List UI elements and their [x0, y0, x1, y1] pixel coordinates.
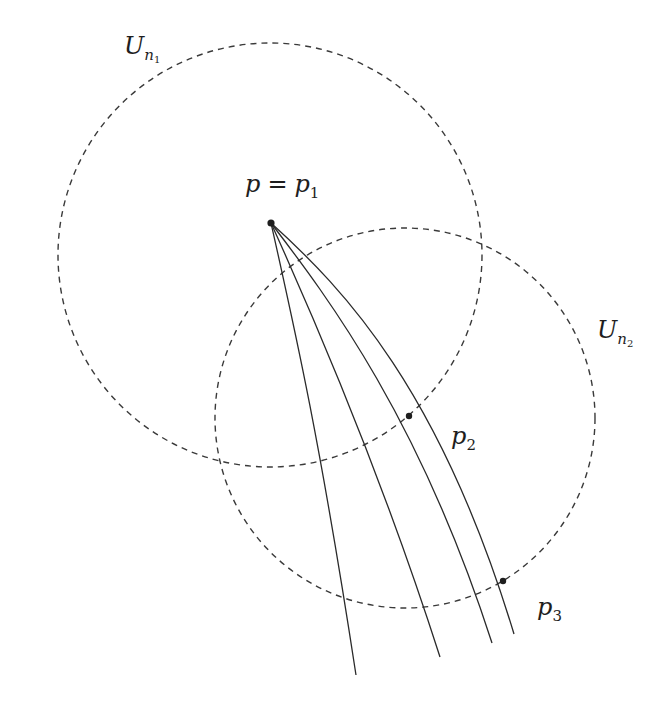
label-p3-sub: 3	[552, 607, 562, 625]
label-p-equals-p1: p=p1	[245, 172, 319, 201]
curve-1	[271, 223, 356, 675]
label-u-n1: Un1	[124, 34, 160, 65]
curve-2	[271, 223, 440, 657]
point-p3	[500, 578, 506, 584]
label-p2-base: p	[451, 422, 466, 450]
label-p3: p3	[537, 595, 562, 624]
label-p2-sub: 2	[466, 436, 476, 454]
label-p2: p2	[451, 424, 476, 453]
label-p: p	[245, 170, 260, 198]
label-p1-sub: 1	[310, 184, 320, 202]
label-u-n2-subsub: 2	[627, 338, 633, 349]
label-p3-base: p	[537, 593, 552, 621]
diagram-canvas	[0, 0, 667, 702]
label-p1-base: p	[294, 170, 309, 198]
label-u-n1-base: U	[124, 32, 144, 60]
equals-sign: =	[260, 170, 294, 198]
label-u-n2-sub: n	[617, 330, 627, 348]
point-p1	[267, 219, 274, 226]
label-u-n2: Un2	[597, 318, 633, 349]
point-p2	[406, 413, 412, 419]
label-u-n1-sub: n	[144, 46, 154, 64]
neighborhood-circle-u-n2	[215, 228, 595, 608]
label-u-n2-base: U	[597, 316, 617, 344]
label-u-n1-subsub: 1	[154, 54, 160, 65]
